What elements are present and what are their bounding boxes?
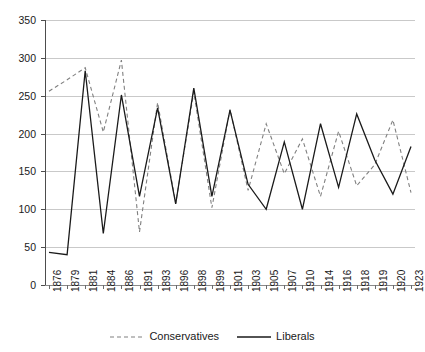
y-axis-label: 300	[0, 53, 36, 63]
x-axis-label: 1899	[216, 270, 226, 292]
gridline	[45, 209, 415, 210]
x-axis-tick-mark	[339, 285, 340, 289]
gridline	[45, 171, 415, 172]
x-axis-tick-mark	[158, 285, 159, 289]
chart-legend: ConservativesLiberals	[0, 331, 425, 342]
y-axis-tick-mark	[41, 20, 45, 21]
x-axis-label: 1903	[252, 270, 262, 292]
x-axis-tick-mark	[194, 285, 195, 289]
y-axis-label: 150	[0, 166, 36, 176]
x-axis-label: 1896	[180, 270, 190, 292]
x-axis-tick-mark	[411, 285, 412, 289]
x-axis-tick-mark	[266, 285, 267, 289]
y-axis-label: 0	[0, 280, 36, 290]
gridline	[45, 247, 415, 248]
x-axis-tick-mark	[248, 285, 249, 289]
gridline	[45, 134, 415, 135]
y-axis-label: 200	[0, 129, 36, 139]
y-axis-label: 350	[0, 15, 36, 25]
gridline	[45, 58, 415, 59]
x-axis-label: 1907	[288, 270, 298, 292]
plot-area	[45, 20, 415, 285]
y-axis-tick-mark	[41, 247, 45, 248]
x-axis-label: 1876	[53, 270, 63, 292]
x-axis-tick-mark	[140, 285, 141, 289]
y-axis-tick-mark	[41, 209, 45, 210]
x-axis-label: 1884	[107, 270, 117, 292]
gridline	[45, 96, 415, 97]
x-axis-label: 1916	[343, 270, 353, 292]
y-axis-label: 100	[0, 204, 36, 214]
legend-swatch-icon	[237, 332, 271, 342]
y-axis-tick-mark	[41, 171, 45, 172]
x-axis-tick-mark	[357, 285, 358, 289]
x-axis-label: 1905	[270, 270, 280, 292]
legend-label: Conservatives	[149, 331, 219, 342]
x-axis-tick-mark	[284, 285, 285, 289]
legend-item-conservatives[interactable]: Conservatives	[110, 331, 219, 342]
legend-swatch-icon	[110, 332, 144, 342]
y-axis-tick-mark	[41, 58, 45, 59]
x-axis-tick-mark	[375, 285, 376, 289]
x-axis-tick-mark	[67, 285, 68, 289]
x-axis-tick-mark	[321, 285, 322, 289]
x-axis-label: 1879	[71, 270, 81, 292]
y-axis-tick-mark	[41, 96, 45, 97]
x-axis-tick-mark	[230, 285, 231, 289]
x-axis-label: 1881	[89, 270, 99, 292]
legend-label: Liberals	[276, 331, 315, 342]
x-axis-tick-mark	[176, 285, 177, 289]
x-axis-tick-mark	[302, 285, 303, 289]
x-axis-label: 1920	[397, 270, 407, 292]
y-axis-line	[45, 20, 46, 285]
y-axis-tick-mark	[41, 134, 45, 135]
x-axis-tick-mark	[121, 285, 122, 289]
x-axis-label: 1910	[306, 270, 316, 292]
x-axis-label: 1901	[234, 270, 244, 292]
y-axis-label: 250	[0, 91, 36, 101]
y-axis-tick-mark	[41, 285, 45, 286]
x-axis-label: 1886	[125, 270, 135, 292]
x-axis-tick-mark	[85, 285, 86, 289]
legend-item-liberals[interactable]: Liberals	[237, 331, 315, 342]
x-axis-tick-mark	[103, 285, 104, 289]
x-axis-label: 1898	[198, 270, 208, 292]
x-axis-tick-mark	[212, 285, 213, 289]
x-axis-label: 1891	[144, 270, 154, 292]
gridline	[45, 20, 415, 21]
x-axis-label: 1893	[162, 270, 172, 292]
line-chart: 050100150200250300350 187618791881188418…	[0, 0, 425, 352]
x-axis-label: 1914	[325, 270, 335, 292]
x-axis-label: 1923	[415, 270, 425, 292]
x-axis-label: 1918	[361, 270, 371, 292]
x-axis-label: 1919	[379, 270, 389, 292]
x-axis-tick-mark	[393, 285, 394, 289]
y-axis-label: 50	[0, 242, 36, 252]
x-axis-tick-mark	[49, 285, 50, 289]
